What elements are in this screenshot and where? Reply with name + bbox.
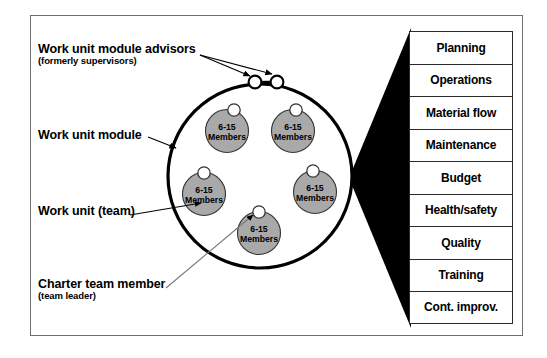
leader-line-advisors-b [200, 55, 272, 74]
callout-team-main: Work unit (team) [38, 204, 135, 218]
function-box-list: Planning Operations Material flow Mainte… [409, 31, 513, 324]
callout-advisors: Work unit module advisors (formerly supe… [38, 42, 196, 67]
function-box-cont-improv[interactable]: Cont. improv. [409, 291, 513, 324]
function-box-maintenance[interactable]: Maintenance [409, 129, 513, 162]
leader-line-module [148, 137, 176, 148]
function-box-quality[interactable]: Quality [409, 226, 513, 259]
callout-charter-team-member: Charter team member (team leader) [38, 277, 165, 302]
callout-module-main: Work unit module [38, 128, 142, 142]
function-wedge [349, 28, 411, 328]
charter-node-1 [228, 104, 240, 116]
callout-work-unit-team: Work unit (team) [38, 204, 135, 218]
diagram-canvas: Work unit module advisors (formerly supe… [0, 0, 547, 358]
charter-node-3 [198, 167, 210, 179]
charter-node-2 [290, 104, 302, 116]
advisor-node-1 [249, 76, 262, 89]
advisor-node-2 [271, 76, 284, 89]
team-circle-1 [206, 110, 249, 153]
function-box-material-flow[interactable]: Material flow [409, 96, 513, 129]
function-box-operations[interactable]: Operations [409, 64, 513, 97]
charter-node-5 [253, 206, 265, 218]
callout-advisors-sub: (formerly supervisors) [38, 56, 196, 67]
function-box-health-safety[interactable]: Health/safety [409, 194, 513, 227]
callout-work-unit-module: Work unit module [38, 128, 142, 142]
leader-line-advisors-a [200, 55, 250, 76]
function-box-training[interactable]: Training [409, 259, 513, 292]
callout-charter-main: Charter team member [38, 277, 165, 291]
charter-node-4 [307, 165, 319, 177]
function-box-planning[interactable]: Planning [409, 31, 513, 64]
callout-charter-sub: (team leader) [38, 291, 165, 302]
callout-advisors-main: Work unit module advisors [38, 42, 196, 56]
function-box-budget[interactable]: Budget [409, 161, 513, 194]
